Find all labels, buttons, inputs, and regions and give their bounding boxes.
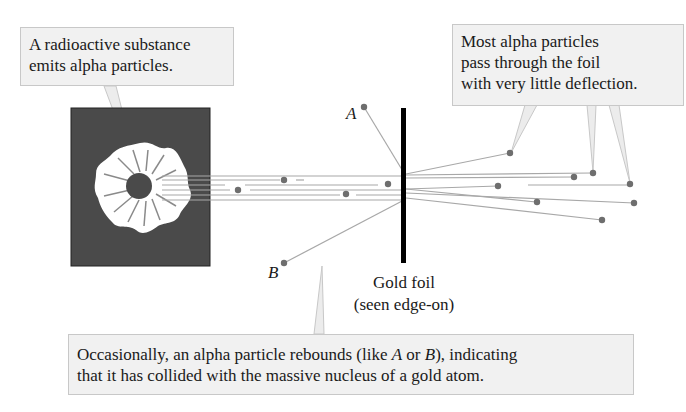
source-callout-text: A radioactive substance emits alpha part…: [29, 35, 190, 75]
rebound-callout-pointer: [314, 266, 324, 334]
pass-callout-pointer-1: [511, 105, 537, 153]
rebound-text-b: B: [425, 345, 435, 364]
foil-label-line-1: Gold foil: [340, 272, 468, 294]
transmitted-particles: [495, 150, 637, 223]
rebound-callout-line-2: that it has collided with the massive nu…: [77, 365, 625, 386]
pass-callout-line-3: with very little deflection.: [461, 73, 675, 94]
particle-a: [361, 104, 367, 110]
rebound-track-a: [364, 107, 404, 173]
particle-b-label: B: [268, 263, 278, 283]
rebound-track-b: [284, 200, 404, 263]
rebound-text-a: A: [392, 345, 402, 364]
pass-callout-line-1: Most alpha particles: [461, 31, 675, 52]
particle-a-label: A: [346, 104, 356, 124]
gold-foil: [401, 108, 406, 263]
foil-label-line-2: (seen edge-on): [340, 294, 468, 316]
source-nucleus: [126, 173, 152, 199]
rebound-callout: Occasionally, an alpha particle rebounds…: [68, 334, 634, 395]
pass-callout-pointer-3: [609, 105, 630, 183]
gold-foil-label: Gold foil (seen edge-on): [340, 272, 468, 316]
particle-b: [281, 260, 287, 266]
rebound-callout-line-1: Occasionally, an alpha particle rebounds…: [77, 344, 625, 365]
rebound-text-post: ), indicating: [435, 345, 517, 364]
pass-through-callout: Most alpha particles pass through the fo…: [452, 24, 684, 106]
rebound-text-pre: Occasionally, an alpha particle rebounds…: [77, 345, 392, 364]
source-callout: A radioactive substance emits alpha part…: [20, 27, 234, 86]
pass-callout-line-2: pass through the foil: [461, 52, 675, 73]
transmitted-tracks: [406, 153, 634, 220]
rebound-text-mid: or: [402, 345, 425, 364]
pass-callout-pointer-2: [587, 105, 596, 172]
